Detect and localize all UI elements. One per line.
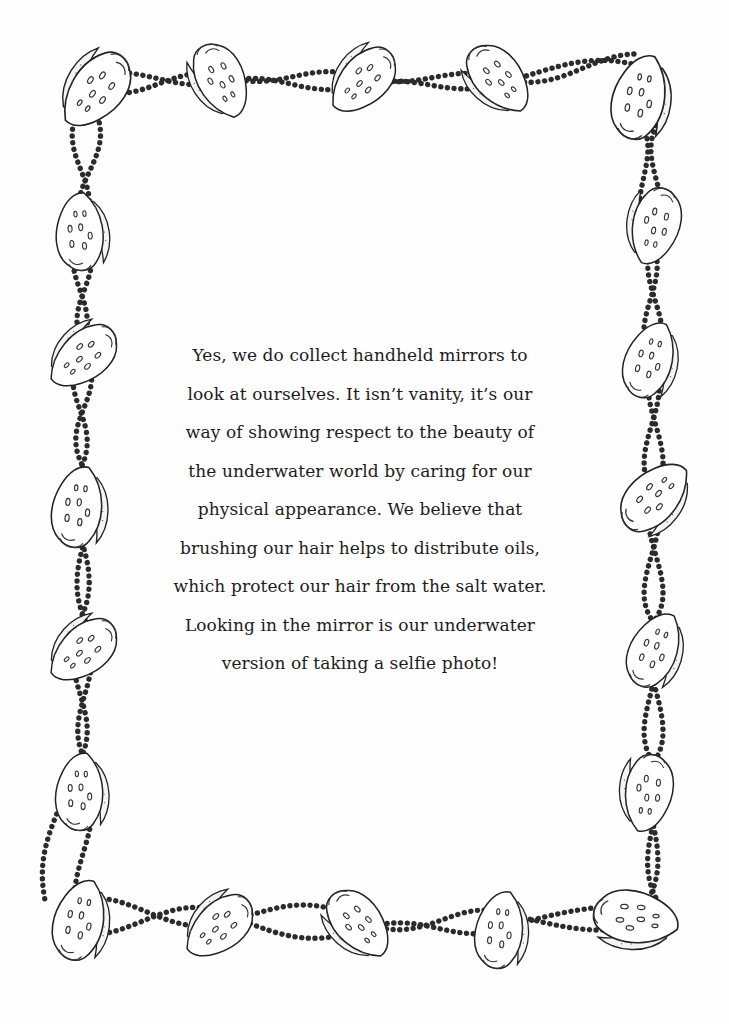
seashell-icon [622,613,687,691]
body-paragraph: Yes, we do collect handheld mirrors to l… [150,336,570,683]
seashell-icon [44,311,124,399]
paragraph-line: way of showing respect to the beauty of [150,413,570,452]
seashell-icon [585,875,682,963]
seashell-icon [41,877,120,967]
paragraph-line: the underwater world by caring for our [150,452,570,491]
shells-left [37,187,125,839]
seashell-icon [617,182,692,268]
seashell-icon [326,36,401,122]
seashell-icon [58,43,135,133]
shells-top [58,35,682,147]
seashell-icon [615,453,694,543]
paragraph-line: Looking in the mirror is our underwater [150,606,570,645]
seashell-icon [37,462,121,555]
paragraph-line: look at ourselves. It isn’t vanity, it’s… [150,375,570,414]
seashell-icon [599,52,682,146]
paragraph-line: brushing our hair helps to distribute oi… [150,529,570,568]
coloring-page: Yes, we do collect handheld mirrors to l… [0,0,729,1024]
paragraph-line: version of taking a selfie photo! [150,644,570,683]
seashell-icon [608,747,688,835]
seashell-icon [44,605,124,693]
paragraph-line: physical appearance. We believe that [150,490,570,529]
seashell-icon [615,321,685,403]
seashell-icon [180,881,260,969]
paragraph-line: Yes, we do collect handheld mirrors to [150,336,570,375]
paragraph-line: which protect our hair from the salt wat… [150,567,570,606]
seashell-icon [38,187,125,279]
